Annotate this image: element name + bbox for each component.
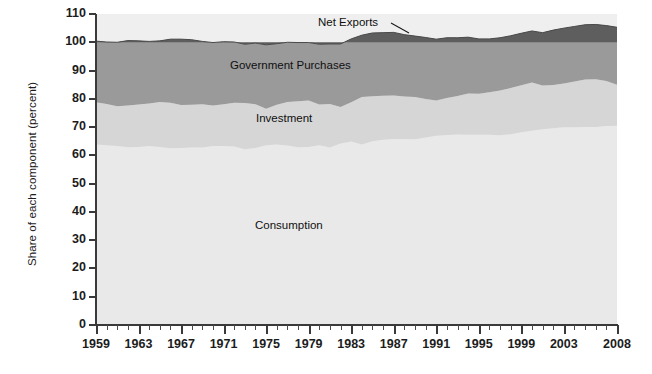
y-tick-label-60: 60 [40, 147, 86, 161]
plot-area [96, 14, 617, 325]
x-tick-2000 [532, 325, 533, 330]
y-axis-title: Share of each component (percent) [26, 24, 38, 324]
x-tick-1989 [415, 325, 416, 330]
x-tick-1971 [224, 325, 226, 334]
series-label-net-exports: Net Exports [318, 16, 378, 28]
x-tick-1988 [404, 325, 405, 330]
x-tick-1961 [117, 325, 118, 330]
x-tick-1994 [468, 325, 469, 330]
x-tick-1996 [489, 325, 490, 330]
x-tick-1976 [277, 325, 278, 330]
x-tick-2003 [564, 325, 566, 334]
y-tick-label-20: 20 [40, 260, 86, 274]
x-tick-1992 [447, 325, 448, 330]
x-tick-1983 [351, 325, 353, 334]
x-tick-1973 [245, 325, 246, 330]
x-tick-1990 [426, 325, 427, 330]
series-label-government-purchases: Government Purchases [230, 59, 351, 71]
x-tick-1986 [383, 325, 384, 330]
x-tick-1965 [160, 325, 161, 330]
x-tick-1999 [521, 325, 523, 334]
x-tick-1960 [107, 325, 108, 330]
x-tick-1972 [234, 325, 235, 330]
y-tick-label-70: 70 [40, 119, 86, 133]
stacked-area-series [96, 14, 617, 325]
y-tick-label-40: 40 [40, 204, 86, 218]
y-tick-label-100: 100 [40, 34, 86, 48]
x-tick-1969 [202, 325, 203, 330]
x-tick-1981 [330, 325, 331, 330]
x-tick-2005 [585, 325, 586, 330]
y-axis-line [95, 14, 97, 325]
x-tick-1963 [139, 325, 141, 334]
series-label-investment: Investment [256, 112, 312, 124]
x-tick-2001 [543, 325, 544, 330]
x-tick-1964 [149, 325, 150, 330]
x-tick-1974 [255, 325, 256, 330]
x-tick-1984 [362, 325, 363, 330]
y-tick-label-110: 110 [40, 6, 86, 20]
x-tick-1995 [479, 325, 481, 334]
x-tick-2002 [553, 325, 554, 330]
y-tick-label-0: 0 [40, 317, 86, 331]
x-tick-1991 [436, 325, 438, 334]
x-tick-1966 [170, 325, 171, 330]
x-tick-1980 [319, 325, 320, 330]
x-tick-1959 [96, 325, 98, 334]
x-tick-1982 [341, 325, 342, 330]
x-tick-2007 [606, 325, 607, 330]
x-tick-2004 [574, 325, 575, 330]
x-tick-1985 [372, 325, 373, 330]
x-tick-1993 [458, 325, 459, 330]
y-tick-label-80: 80 [40, 91, 86, 105]
x-tick-2008 [617, 325, 619, 334]
x-tick-label-2008: 2008 [587, 337, 647, 351]
x-tick-1987 [394, 325, 396, 334]
x-tick-1967 [181, 325, 183, 334]
x-tick-2006 [596, 325, 597, 330]
chart-figure: Share of each component (percent) 010203… [0, 0, 652, 374]
y-tick-label-30: 30 [40, 232, 86, 246]
x-tick-1997 [500, 325, 501, 330]
x-axis-line [95, 324, 618, 326]
y-tick-label-90: 90 [40, 63, 86, 77]
x-tick-1968 [192, 325, 193, 330]
y-tick-label-10: 10 [40, 289, 86, 303]
x-tick-1975 [266, 325, 268, 334]
x-tick-1979 [309, 325, 311, 334]
x-tick-1962 [128, 325, 129, 330]
x-tick-1978 [298, 325, 299, 330]
y-tick-label-50: 50 [40, 176, 86, 190]
x-tick-label-2003: 2003 [534, 337, 594, 351]
series-label-consumption: Consumption [255, 219, 323, 231]
area-consumption [96, 126, 617, 325]
x-tick-1970 [213, 325, 214, 330]
x-tick-1998 [511, 325, 512, 330]
x-tick-1977 [287, 325, 288, 330]
